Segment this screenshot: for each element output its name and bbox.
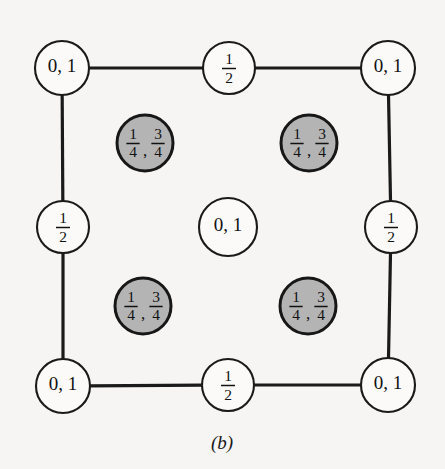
bond-bottom-left-to-bot-middle	[89, 385, 203, 386]
unit-cell-figure: 0, 1120, 114,3414,34120, 11214,3414,340,…	[0, 0, 445, 469]
fraction-denominator: 4	[292, 306, 300, 323]
fraction-numerator: 1	[224, 367, 232, 384]
fraction-numerator: 3	[317, 288, 325, 305]
atom-site-center[interactable]: 0, 1	[199, 198, 257, 256]
fraction-numerator: 1	[59, 209, 67, 226]
fraction-denominator: 2	[387, 228, 395, 245]
fraction-numerator: 3	[154, 125, 162, 142]
fraction-denominator: 2	[224, 386, 232, 403]
fraction-denominator: 2	[225, 69, 233, 86]
label-separator: ,	[141, 304, 145, 323]
fraction-numerator: 3	[152, 288, 160, 305]
bond-top-right-to-middle-right	[388, 94, 390, 202]
figure-caption: (b)	[211, 432, 233, 454]
atom-label: 0, 1	[48, 55, 77, 76]
atom-site-corner-top-left[interactable]: 0, 1	[35, 41, 89, 95]
fraction-denominator: 4	[317, 306, 325, 323]
bond-middle-right-to-bot-right	[388, 252, 390, 359]
label-separator: ,	[307, 141, 311, 160]
fraction-denominator: 4	[154, 143, 162, 160]
fraction-numerator: 1	[225, 50, 233, 67]
atom-site-edge-bottom-middle[interactable]: 12	[202, 359, 254, 411]
atom-site-corner-top-right[interactable]: 0, 1	[361, 41, 415, 95]
atom-label: 0, 1	[374, 372, 403, 393]
atom-site-interior-lower-left[interactable]: 14,34	[115, 278, 171, 334]
unit-cell-diagram: 0, 1120, 114,3414,34120, 11214,3414,340,…	[0, 0, 445, 469]
atom-site-corner-bottom-right[interactable]: 0, 1	[361, 358, 415, 412]
atom-site-interior-upper-left[interactable]: 14,34	[117, 115, 173, 171]
fraction-numerator: 1	[387, 209, 395, 226]
atom-label: 0, 1	[49, 373, 78, 394]
atom-site-edge-middle-right[interactable]: 12	[365, 201, 417, 253]
fraction-denominator: 4	[152, 306, 160, 323]
atom-site-interior-lower-right[interactable]: 14,34	[280, 278, 336, 334]
atom-site-edge-top-middle[interactable]: 12	[203, 42, 255, 94]
label-separator: ,	[143, 141, 147, 160]
atom-site-corner-bottom-left[interactable]: 0, 1	[36, 359, 90, 413]
fraction-denominator: 4	[318, 143, 326, 160]
fraction-denominator: 4	[127, 306, 135, 323]
fraction-numerator: 1	[129, 125, 137, 142]
fraction-numerator: 3	[318, 125, 326, 142]
atom-site-interior-upper-right[interactable]: 14,34	[281, 115, 337, 171]
bond-top-left-to-middle-left	[62, 94, 63, 202]
fraction-denominator: 4	[129, 143, 137, 160]
atom-site-edge-middle-left[interactable]: 12	[37, 201, 89, 253]
fraction-denominator: 2	[59, 228, 67, 245]
fraction-denominator: 4	[293, 143, 301, 160]
label-separator: ,	[306, 304, 310, 323]
fraction-numerator: 1	[292, 288, 300, 305]
fraction-numerator: 1	[127, 288, 135, 305]
atom-label: 0, 1	[214, 214, 243, 235]
fraction-numerator: 1	[293, 125, 301, 142]
atom-label: 0, 1	[374, 55, 403, 76]
atom-layer: 0, 1120, 114,3414,34120, 11214,3414,340,…	[35, 41, 417, 413]
